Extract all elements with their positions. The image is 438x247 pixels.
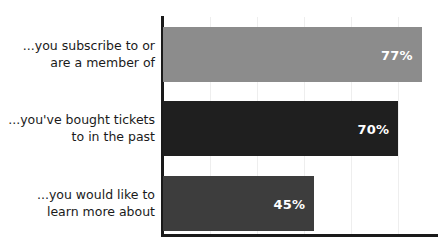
- category-label: ...you've bought tickets to in the past: [5, 111, 155, 147]
- bar-segment: 45%: [163, 176, 314, 231]
- bar-chart: ...you subscribe to or are a member of 7…: [0, 0, 438, 247]
- bar-row: ...you would like to learn more about 45…: [0, 176, 438, 231]
- bar-segment: 77%: [163, 27, 422, 82]
- bar-row: ...you subscribe to or are a member of 7…: [0, 27, 438, 82]
- category-label: ...you would like to learn more about: [5, 186, 155, 222]
- x-axis-line: [161, 234, 438, 237]
- bar-segment: 70%: [163, 101, 398, 156]
- bar-value-label: 77%: [381, 48, 413, 61]
- bar-value-label: 45%: [273, 197, 305, 210]
- category-label: ...you subscribe to or are a member of: [5, 37, 155, 73]
- bar-row: ...you've bought tickets to in the past …: [0, 101, 438, 156]
- bar-value-label: 70%: [357, 122, 389, 135]
